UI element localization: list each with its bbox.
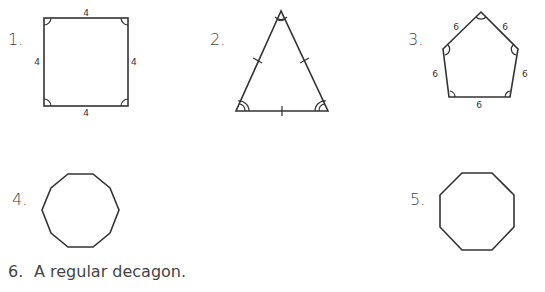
pentagon-figure: 6 6 6 6 6 — [432, 12, 528, 110]
figures-canvas: 4 4 4 4 6 6 6 6 6 — [0, 0, 545, 292]
side-label: 4 — [83, 108, 89, 118]
problem-6-number: 6. — [8, 262, 34, 281]
angle-mark-icon — [319, 104, 324, 111]
triangle-figure — [236, 11, 328, 116]
side-label: 4 — [83, 8, 89, 18]
decagon-figure — [42, 174, 119, 247]
octagon-figure — [440, 173, 514, 250]
right-angle-mark-icon — [44, 18, 51, 25]
angle-mark-icon — [450, 91, 455, 97]
square-figure: 4 4 4 4 — [34, 8, 137, 118]
side-label: 6 — [502, 22, 508, 32]
side-label: 6 — [432, 69, 438, 79]
side-label: 6 — [476, 100, 482, 110]
problem-6: 6.A regular decagon. — [8, 262, 186, 281]
problem-6-text: A regular decagon. — [34, 262, 186, 281]
side-label: 6 — [453, 22, 459, 32]
side-label: 6 — [522, 69, 528, 79]
angle-mark-icon — [240, 104, 245, 111]
side-label: 4 — [34, 57, 40, 67]
angle-mark-icon — [476, 17, 486, 19]
right-angle-mark-icon — [44, 99, 51, 106]
right-angle-mark-icon — [121, 99, 128, 106]
right-angle-mark-icon — [121, 18, 128, 25]
side-label: 4 — [131, 57, 137, 67]
